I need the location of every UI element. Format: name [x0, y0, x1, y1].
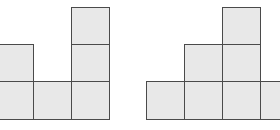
square-cell — [184, 44, 223, 83]
square-cell — [260, 81, 280, 120]
square-cell — [222, 7, 261, 46]
square-cell — [146, 81, 185, 120]
square-cell — [222, 44, 261, 83]
square-cell — [71, 81, 110, 120]
square-cell — [71, 7, 110, 46]
square-cell — [33, 81, 72, 120]
square-cell — [184, 81, 223, 120]
square-cell — [0, 44, 34, 83]
square-cell — [222, 81, 261, 120]
square-cell — [71, 44, 110, 83]
square-cell — [0, 81, 34, 120]
